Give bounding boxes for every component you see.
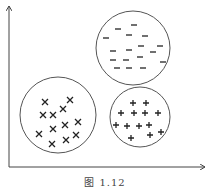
cluster-diagram (0, 0, 210, 189)
data-point (50, 126, 56, 132)
data-point (36, 131, 42, 137)
data-point (143, 100, 149, 106)
data-point (62, 122, 68, 128)
x-cluster-boundary (20, 77, 96, 153)
data-point (113, 122, 119, 128)
data-point (130, 100, 136, 106)
minus-cluster (96, 11, 170, 85)
data-point (40, 112, 46, 118)
clusters (20, 11, 170, 153)
minus-cluster-boundary (96, 11, 170, 85)
data-point (42, 99, 48, 105)
data-point (131, 110, 137, 116)
plus-cluster (110, 87, 170, 147)
data-point (146, 122, 152, 128)
figure-caption: 图 1.12 (0, 174, 210, 189)
data-point (50, 112, 56, 118)
data-point (128, 135, 134, 141)
x-cluster (20, 77, 96, 153)
data-point (67, 97, 73, 103)
data-point (158, 129, 164, 135)
data-point (142, 110, 148, 116)
data-point (75, 119, 81, 125)
data-point (73, 132, 79, 138)
data-point (147, 132, 153, 138)
data-point (124, 123, 130, 129)
data-point (49, 141, 55, 147)
plus-cluster-boundary (110, 87, 170, 147)
data-point (60, 106, 66, 112)
data-point (118, 110, 124, 116)
data-point (155, 110, 161, 116)
data-point (136, 123, 142, 129)
data-point (63, 137, 69, 143)
